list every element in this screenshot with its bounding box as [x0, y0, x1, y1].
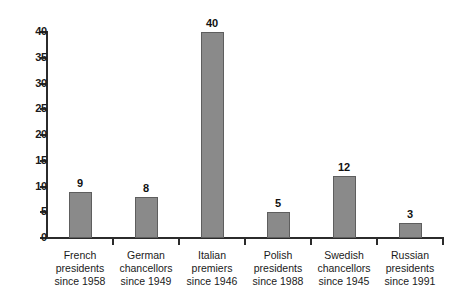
- category-label-line: German: [113, 249, 179, 262]
- category-label-line: chancellors: [311, 262, 377, 275]
- category-label-line: premiers: [179, 262, 245, 275]
- category-label: Frenchpresidentssince 1958: [47, 249, 113, 288]
- category-label-line: since 1991: [377, 275, 443, 288]
- category-label: Germanchancellorssince 1949: [113, 249, 179, 288]
- bar-value-label: 8: [122, 182, 170, 194]
- category-label-line: since 1958: [47, 275, 113, 288]
- bar-value-label: 12: [320, 161, 368, 173]
- category-label-line: since 1946: [179, 275, 245, 288]
- bar[interactable]: [333, 176, 356, 238]
- category-label: Russianpresidentssince 1991: [377, 249, 443, 288]
- bar-value-label: 9: [56, 177, 104, 189]
- category-label: Polishpresidentssince 1988: [245, 249, 311, 288]
- bar[interactable]: [135, 197, 158, 238]
- category-label-line: Italian: [179, 249, 245, 262]
- category-label: Swedishchancellorssince 1945: [311, 249, 377, 288]
- category-label-line: Russian: [377, 249, 443, 262]
- category-label-line: since 1945: [311, 275, 377, 288]
- category-label-line: French: [47, 249, 113, 262]
- category-label-line: since 1949: [113, 275, 179, 288]
- bar-value-label: 5: [254, 197, 302, 209]
- category-label: Italianpremierssince 1946: [179, 249, 245, 288]
- category-label-line: presidents: [377, 262, 443, 275]
- bar[interactable]: [69, 192, 92, 238]
- bar[interactable]: [399, 223, 422, 238]
- category-label-line: Swedish: [311, 249, 377, 262]
- category-label-line: Polish: [245, 249, 311, 262]
- bar[interactable]: [267, 212, 290, 238]
- category-label-line: presidents: [47, 262, 113, 275]
- category-label-line: chancellors: [113, 262, 179, 275]
- category-label-line: presidents: [245, 262, 311, 275]
- bar-chart: 0510152025303540 98405123 Frenchpresiden…: [0, 0, 461, 298]
- bar[interactable]: [201, 32, 224, 238]
- bar-value-label: 40: [188, 17, 236, 29]
- bar-value-label: 3: [386, 208, 434, 220]
- category-label-line: since 1988: [245, 275, 311, 288]
